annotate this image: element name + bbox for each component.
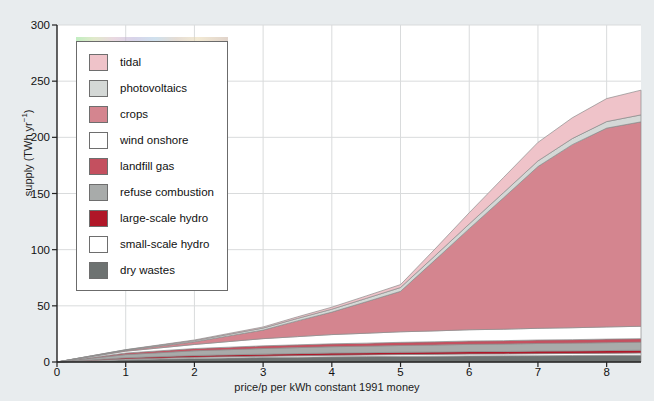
legend-swatch-icon — [89, 132, 108, 149]
legend-item-label: small-scale hydro — [120, 238, 209, 250]
legend-swatch-icon — [89, 54, 108, 71]
legend-swatch-icon — [89, 210, 108, 227]
legend-swatch-icon — [89, 80, 108, 97]
legend-item-large-scale-hydro: large-scale hydro — [77, 205, 227, 231]
x-axis-label: price/p per kWh constant 1991 money — [0, 381, 654, 393]
legend-item-label: landfill gas — [120, 160, 174, 172]
x-tick-label: 6 — [454, 366, 484, 378]
legend-item-label: refuse combustion — [120, 186, 214, 198]
legend-item-photovoltaics: photovoltaics — [77, 75, 227, 101]
x-tick-label: 8 — [592, 366, 622, 378]
x-tick-label: 0 — [42, 366, 72, 378]
legend-item-small-scale-hydro: small-scale hydro — [77, 231, 227, 257]
legend-item-label: tidal — [120, 56, 141, 68]
legend-item-landfill-gas: landfill gas — [77, 153, 227, 179]
legend-swatch-icon — [89, 184, 108, 201]
legend-item-label: dry wastes — [120, 264, 175, 276]
y-tick-label: 50 — [16, 300, 50, 312]
legend-scan-fringe — [76, 37, 228, 41]
y-axis-label: supply (TWh yr−1) — [20, 68, 34, 238]
legend-item-label: photovoltaics — [120, 82, 187, 94]
x-tick-label: 5 — [386, 366, 416, 378]
x-tick-label: 1 — [111, 366, 141, 378]
x-tick-label: 7 — [523, 366, 553, 378]
legend-swatch-icon — [89, 158, 108, 175]
legend-swatch-icon — [89, 262, 108, 279]
legend-item-crops: crops — [77, 101, 227, 127]
legend-item-wind-onshore: wind onshore — [77, 127, 227, 153]
legend-item-tidal: tidal — [77, 49, 227, 75]
legend-item-label: large-scale hydro — [120, 212, 208, 224]
x-tick-label: 2 — [179, 366, 209, 378]
chart-legend: tidalphotovoltaicscropswind onshorelandf… — [76, 41, 228, 291]
x-tick-label: 3 — [248, 366, 278, 378]
legend-item-dry-wastes: dry wastes — [77, 257, 227, 283]
y-tick-label: 100 — [16, 244, 50, 256]
chart-figure: 050100150200250300 012345678 supply (TWh… — [0, 0, 654, 401]
legend-item-label: wind onshore — [120, 134, 188, 146]
legend-swatch-icon — [89, 106, 108, 123]
legend-item-label: crops — [120, 108, 148, 120]
legend-swatch-icon — [89, 236, 108, 253]
legend-item-refuse-combustion: refuse combustion — [77, 179, 227, 205]
y-tick-label: 300 — [16, 19, 50, 31]
x-tick-label: 4 — [317, 366, 347, 378]
